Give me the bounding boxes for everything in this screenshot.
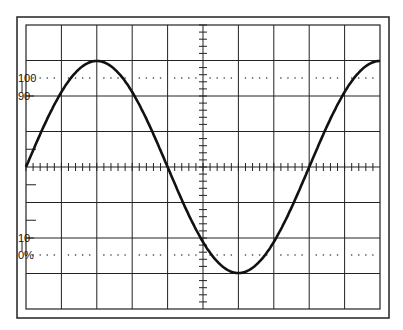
center-axis-ticks xyxy=(26,25,373,302)
label-0-percent: 0% xyxy=(18,250,34,261)
oscilloscope-display xyxy=(0,0,403,330)
label-90-percent: 90 xyxy=(18,91,30,102)
label-100-percent: 100 xyxy=(18,73,36,84)
label-10-percent: 10 xyxy=(18,233,30,244)
